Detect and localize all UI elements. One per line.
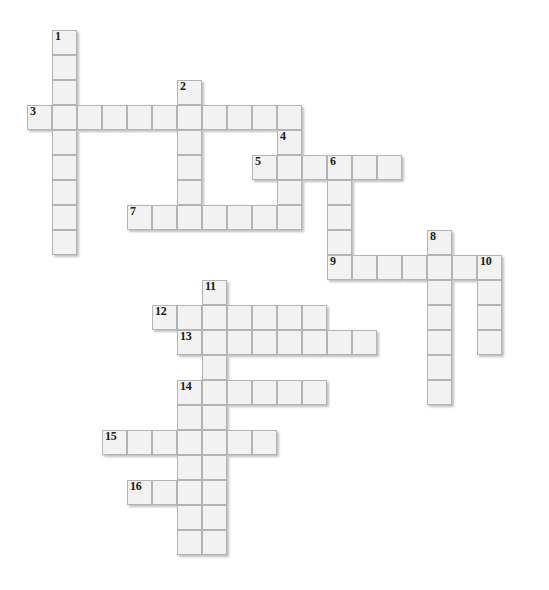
crossword-cell[interactable] (152, 480, 177, 505)
crossword-cell[interactable] (427, 330, 452, 355)
crossword-cell[interactable] (352, 155, 377, 180)
crossword-cell[interactable] (127, 430, 152, 455)
crossword-cell[interactable] (227, 105, 252, 130)
crossword-cell[interactable] (202, 355, 227, 380)
crossword-cell-start-12[interactable]: 12 (152, 305, 177, 330)
crossword-cell[interactable] (327, 230, 352, 255)
crossword-cell[interactable] (52, 55, 77, 80)
crossword-cell[interactable] (277, 105, 302, 130)
crossword-cell[interactable] (102, 105, 127, 130)
crossword-cell[interactable] (152, 105, 177, 130)
crossword-cell-start-5[interactable]: 5 (252, 155, 277, 180)
crossword-cell[interactable] (202, 455, 227, 480)
crossword-cell[interactable] (52, 205, 77, 230)
crossword-cell[interactable] (277, 380, 302, 405)
crossword-cell[interactable] (202, 480, 227, 505)
crossword-cell[interactable] (227, 330, 252, 355)
crossword-cell[interactable] (52, 180, 77, 205)
crossword-cell-start-8[interactable]: 8 (427, 230, 452, 255)
crossword-cell[interactable] (177, 155, 202, 180)
crossword-cell[interactable] (252, 305, 277, 330)
crossword-cell[interactable] (277, 180, 302, 205)
crossword-cell[interactable] (127, 105, 152, 130)
crossword-cell-start-2[interactable]: 2 (177, 80, 202, 105)
crossword-cell[interactable] (277, 330, 302, 355)
crossword-cell[interactable] (277, 305, 302, 330)
crossword-cell[interactable] (202, 205, 227, 230)
crossword-cell-start-1[interactable]: 1 (52, 30, 77, 55)
crossword-cell[interactable] (177, 130, 202, 155)
crossword-cell-start-14[interactable]: 14 (177, 380, 202, 405)
crossword-cell[interactable] (302, 155, 327, 180)
crossword-cell[interactable] (177, 505, 202, 530)
crossword-cell-start-16[interactable]: 16 (127, 480, 152, 505)
crossword-cell[interactable] (377, 255, 402, 280)
crossword-cell[interactable] (252, 205, 277, 230)
crossword-cell[interactable] (452, 255, 477, 280)
crossword-cell[interactable] (477, 305, 502, 330)
crossword-cell-start-7[interactable]: 7 (127, 205, 152, 230)
crossword-cell[interactable] (177, 405, 202, 430)
crossword-cell[interactable] (477, 330, 502, 355)
crossword-cell[interactable] (152, 430, 177, 455)
crossword-cell[interactable] (252, 330, 277, 355)
crossword-cell[interactable] (177, 455, 202, 480)
crossword-cell[interactable] (202, 105, 227, 130)
crossword-cell-start-4[interactable]: 4 (277, 130, 302, 155)
crossword-cell[interactable] (427, 305, 452, 330)
crossword-cell[interactable] (402, 255, 427, 280)
crossword-cell[interactable] (277, 205, 302, 230)
crossword-cell[interactable] (352, 255, 377, 280)
crossword-cell[interactable] (177, 105, 202, 130)
crossword-cell-start-9[interactable]: 9 (327, 255, 352, 280)
crossword-cell[interactable] (302, 380, 327, 405)
crossword-cell[interactable] (177, 530, 202, 555)
crossword-cell-start-11[interactable]: 11 (202, 280, 227, 305)
crossword-cell[interactable] (427, 380, 452, 405)
crossword-cell[interactable] (177, 430, 202, 455)
crossword-cell[interactable] (227, 305, 252, 330)
crossword-cell[interactable] (427, 280, 452, 305)
crossword-cell[interactable] (252, 380, 277, 405)
crossword-cell[interactable] (427, 255, 452, 280)
crossword-cell[interactable] (202, 505, 227, 530)
crossword-cell[interactable] (327, 205, 352, 230)
crossword-cell-start-3[interactable]: 3 (27, 105, 52, 130)
crossword-cell[interactable] (52, 230, 77, 255)
crossword-cell-start-13[interactable]: 13 (177, 330, 202, 355)
crossword-cell[interactable] (202, 530, 227, 555)
crossword-cell[interactable] (427, 355, 452, 380)
crossword-cell[interactable] (477, 280, 502, 305)
crossword-grid[interactable]: 12345678910111213141516 (0, 0, 549, 590)
crossword-cell[interactable] (52, 155, 77, 180)
crossword-cell[interactable] (202, 330, 227, 355)
crossword-cell-start-6[interactable]: 6 (327, 155, 352, 180)
crossword-cell[interactable] (227, 430, 252, 455)
crossword-cell[interactable] (252, 105, 277, 130)
crossword-cell[interactable] (202, 380, 227, 405)
crossword-cell[interactable] (52, 130, 77, 155)
crossword-cell[interactable] (52, 105, 77, 130)
crossword-cell[interactable] (377, 155, 402, 180)
crossword-cell[interactable] (277, 155, 302, 180)
crossword-cell[interactable] (202, 430, 227, 455)
crossword-cell[interactable] (227, 380, 252, 405)
crossword-cell[interactable] (152, 205, 177, 230)
crossword-cell[interactable] (177, 305, 202, 330)
crossword-cell-start-10[interactable]: 10 (477, 255, 502, 280)
crossword-cell[interactable] (77, 105, 102, 130)
crossword-cell[interactable] (52, 80, 77, 105)
crossword-cell[interactable] (327, 180, 352, 205)
crossword-cell[interactable] (177, 205, 202, 230)
crossword-cell[interactable] (302, 330, 327, 355)
crossword-cell[interactable] (227, 205, 252, 230)
crossword-cell-start-15[interactable]: 15 (102, 430, 127, 455)
crossword-cell[interactable] (302, 305, 327, 330)
crossword-cell[interactable] (202, 405, 227, 430)
crossword-cell[interactable] (327, 330, 352, 355)
crossword-cell[interactable] (352, 330, 377, 355)
crossword-cell[interactable] (177, 480, 202, 505)
crossword-cell[interactable] (252, 430, 277, 455)
crossword-cell[interactable] (177, 180, 202, 205)
crossword-cell[interactable] (202, 305, 227, 330)
